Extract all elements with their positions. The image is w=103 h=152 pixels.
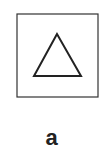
figure-label: a xyxy=(0,126,103,150)
triangle-shape xyxy=(34,34,81,76)
square-frame xyxy=(17,14,98,97)
